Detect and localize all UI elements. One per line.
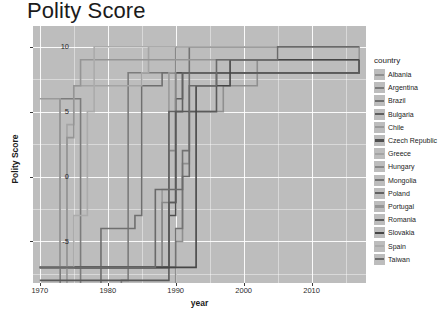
legend-color-swatch: [375, 179, 384, 181]
legend-item-poland[interactable]: Poland: [374, 187, 445, 200]
chart-root: Polity Score -50510 19701980199020002010…: [0, 0, 445, 316]
legend-color-swatch: [375, 219, 384, 221]
legend-key-icon: [374, 135, 385, 146]
legend-color-swatch: [375, 258, 384, 260]
legend-item-label: Hungary: [388, 163, 414, 170]
legend-key-icon: [374, 122, 385, 133]
legend-color-swatch: [375, 126, 384, 128]
y-axis-tick-label: 5: [65, 107, 69, 116]
legend: country AlbaniaArgentinaBrazilBulgariaCh…: [374, 56, 445, 266]
legend-item-label: Romania: [388, 216, 416, 223]
page-title: Polity Score: [27, 0, 146, 24]
legend-item-greece[interactable]: Greece: [374, 147, 445, 160]
legend-item-slovakia[interactable]: Slovakia: [374, 226, 445, 239]
plot-panel: [33, 26, 366, 283]
legend-item-spain[interactable]: Spain: [374, 239, 445, 252]
legend-items: AlbaniaArgentinaBrazilBulgariaChileCzech…: [374, 68, 445, 266]
y-axis-tick-label: 0: [65, 172, 69, 181]
legend-item-label: Bulgaria: [388, 111, 414, 118]
x-axis-tick-mark: [312, 283, 313, 286]
series-lines: [33, 26, 366, 283]
legend-key-icon: [374, 188, 385, 199]
series-line-spain: [40, 47, 359, 268]
y-axis-tick-label: 10: [61, 42, 69, 51]
legend-key-icon: [374, 161, 385, 172]
legend-item-portugal[interactable]: Portugal: [374, 200, 445, 213]
legend-item-label: Portugal: [388, 203, 414, 210]
legend-item-albania[interactable]: Albania: [374, 68, 445, 81]
legend-key-icon: [374, 109, 385, 120]
x-axis-tick-label: 2000: [235, 286, 252, 295]
legend-color-swatch: [375, 232, 384, 234]
y-axis-title: Polity Score: [10, 124, 20, 194]
legend-color-swatch: [375, 192, 384, 194]
legend-key-icon: [374, 175, 385, 186]
x-axis-tick-mark: [244, 283, 245, 286]
legend-color-swatch: [375, 100, 384, 102]
x-axis-tick-mark: [176, 283, 177, 286]
legend-item-label: Spain: [388, 243, 406, 250]
legend-item-label: Chile: [388, 124, 404, 131]
x-axis-tick-label: 1990: [167, 286, 184, 295]
y-axis-tick-label: -5: [62, 237, 69, 246]
x-axis-tick-label: 2010: [303, 286, 320, 295]
y-axis-tick-mark: [30, 177, 33, 178]
legend-key-icon: [374, 254, 385, 265]
legend-key-icon: [374, 69, 385, 80]
x-axis-tick-mark: [108, 283, 109, 286]
legend-item-romania[interactable]: Romania: [374, 213, 445, 226]
legend-item-label: Mongolia: [388, 177, 416, 184]
legend-item-hungary[interactable]: Hungary: [374, 160, 445, 173]
legend-item-label: Greece: [388, 150, 411, 157]
legend-color-swatch: [375, 153, 384, 155]
legend-item-mongolia[interactable]: Mongolia: [374, 174, 445, 187]
legend-item-label: Slovakia: [388, 229, 414, 236]
legend-item-label: Taiwan: [388, 256, 410, 263]
legend-key-icon: [374, 201, 385, 212]
legend-color-swatch: [375, 113, 384, 115]
legend-key-icon: [374, 214, 385, 225]
legend-key-icon: [374, 95, 385, 106]
legend-color-swatch: [375, 166, 384, 168]
x-axis-tick-label: 1980: [99, 286, 116, 295]
x-axis-title: year: [33, 298, 366, 308]
legend-key-icon: [374, 227, 385, 238]
legend-title: country: [374, 56, 445, 65]
legend-item-label: Brazil: [388, 97, 406, 104]
legend-item-argentina[interactable]: Argentina: [374, 81, 445, 94]
legend-color-swatch: [375, 205, 384, 207]
legend-color-swatch: [375, 87, 384, 89]
legend-item-label: Argentina: [388, 84, 418, 91]
legend-color-swatch: [375, 245, 384, 247]
x-axis-tick-label: 1970: [31, 286, 48, 295]
legend-item-label: Poland: [388, 190, 410, 197]
legend-item-label: Albania: [388, 71, 411, 78]
legend-color-swatch: [375, 139, 384, 141]
legend-item-czech-republic[interactable]: Czech Republic: [374, 134, 445, 147]
legend-color-swatch: [375, 74, 384, 76]
legend-key-icon: [374, 241, 385, 252]
y-axis-tick-mark: [30, 241, 33, 242]
y-axis-tick-mark: [30, 47, 33, 48]
x-axis-tick-mark: [40, 283, 41, 286]
y-axis-tick-mark: [30, 112, 33, 113]
legend-item-bulgaria[interactable]: Bulgaria: [374, 108, 445, 121]
legend-item-brazil[interactable]: Brazil: [374, 94, 445, 107]
legend-item-taiwan[interactable]: Taiwan: [374, 253, 445, 266]
legend-item-label: Czech Republic: [388, 137, 437, 144]
legend-key-icon: [374, 82, 385, 93]
legend-key-icon: [374, 148, 385, 159]
legend-item-chile[interactable]: Chile: [374, 121, 445, 134]
